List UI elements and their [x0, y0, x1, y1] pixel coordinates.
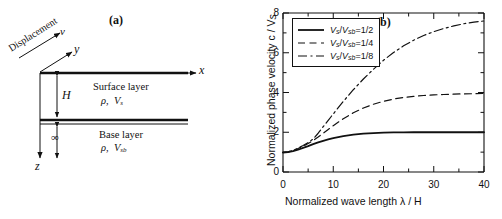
- legend-label-0: Vs/Vsb=1/2: [330, 25, 373, 35]
- z-axis-label: z: [35, 160, 40, 172]
- surface-layer-properties: ρ, Vs: [101, 96, 123, 107]
- figure-container: (a) Displacement v y x z H ∞ Surface lay…: [0, 0, 502, 219]
- chart-legend: Vs/Vsb=1/2Vs/Vsb=1/4Vs/Vsb=1/8: [292, 18, 380, 67]
- panel-a-tag: (a): [109, 14, 123, 26]
- base-vsb-subscript: sb: [120, 146, 126, 154]
- layer-thickness-label: H: [62, 89, 71, 101]
- legend-label-1: Vs/Vsb=1/4: [330, 38, 373, 48]
- y-tick-label-6: 6: [266, 48, 279, 58]
- legend-value-2: =1/8: [355, 51, 373, 61]
- x-tick-label-30: 30: [425, 180, 443, 190]
- legend-item-2[interactable]: Vs/Vsb=1/8: [297, 49, 373, 62]
- legend-label-2: Vs/Vsb=1/8: [330, 51, 373, 61]
- legend-item-1[interactable]: Vs/Vsb=1/4: [297, 36, 373, 49]
- y-tick-label-2: 2: [266, 127, 279, 137]
- legend-swatch-dashed: [297, 38, 325, 48]
- legend-value-1: =1/4: [355, 38, 373, 48]
- legend-swatch-dashdot: [297, 51, 325, 61]
- surface-vs-subscript: s: [120, 99, 123, 107]
- y-tick-label-4: 4: [266, 88, 279, 98]
- infinite-depth-label: ∞: [51, 132, 59, 143]
- y-tick-label-0: 0: [266, 167, 279, 177]
- legend-swatch-solid: [297, 25, 325, 35]
- x-tick-label-0: 0: [274, 180, 292, 190]
- y-tick-label-8: 8: [266, 8, 279, 18]
- surface-layer-label: Surface layer: [93, 82, 149, 93]
- series-line-0: [283, 132, 484, 152]
- surface-props-separator: ,: [106, 95, 109, 106]
- x-tick-label-10: 10: [324, 180, 342, 190]
- base-layer-properties: ρ, Vsb: [101, 143, 127, 154]
- v-displacement-label: v: [60, 26, 65, 37]
- x-tick-label-40: 40: [475, 180, 493, 190]
- legend-item-0[interactable]: Vs/Vsb=1/2: [297, 23, 373, 36]
- base-props-separator: ,: [106, 142, 109, 153]
- y-axis-arrow: [40, 52, 72, 72]
- panel-a-schematic-diagram: (a) Displacement v y x z H ∞ Surface lay…: [0, 0, 251, 219]
- legend-value-0: =1/2: [355, 25, 373, 35]
- base-layer-label: Base layer: [99, 130, 143, 141]
- panel-b-chart: (b) Normalized wave length λ / H Normali…: [251, 0, 502, 219]
- x-axis-label: x: [199, 64, 204, 76]
- x-tick-label-20: 20: [375, 180, 393, 190]
- y-axis-label: y: [74, 43, 79, 55]
- x-axis-title: Normalized wave length λ / H: [285, 196, 422, 207]
